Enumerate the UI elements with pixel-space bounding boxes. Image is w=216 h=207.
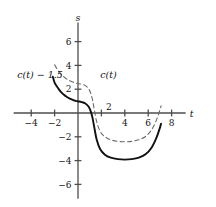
y-axis-tick-label: −2 [58,132,71,142]
x-axis-tick-label: 4 [122,118,128,128]
y-axis-tick-label: 4 [66,61,72,71]
x-axis-tick-label: 8 [169,118,175,128]
x-axis-tick-label: 2 [106,102,112,112]
y-axis-tick-label: 6 [66,37,72,47]
y-axis-tick-label: −6 [58,180,72,190]
figure-container: −4−22468642−2−4−6tsc(t)c(t) − 1.5 [0,0,216,207]
y-axis-tick-label: −4 [58,156,72,166]
x-axis-name: t [190,108,194,119]
y-axis-name: s [76,12,81,23]
solid-curve-label: c(t) − 1.5 [17,69,63,80]
coordinate-plot: −4−22468642−2−4−6tsc(t)c(t) − 1.5 [0,0,216,207]
x-axis-tick-label: −4 [25,118,39,128]
dashed-curve-label: c(t) [100,69,117,80]
y-axis-tick-label: 2 [66,84,72,94]
x-axis-tick-label: −2 [48,118,61,128]
x-axis-tick-label: 6 [145,118,151,128]
